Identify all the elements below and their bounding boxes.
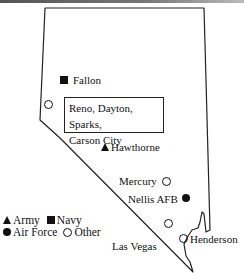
other-marker-reno	[44, 100, 53, 109]
legend-row-1: Army Navy	[3, 214, 101, 226]
site-label-mercury: Mercury	[119, 175, 157, 187]
navy-marker-fallon	[60, 76, 68, 84]
army-marker-hawthorne	[101, 143, 109, 151]
site-label-henderson: Henderson	[190, 233, 238, 245]
cities-box-line1: Reno, Dayton, Sparks,	[69, 100, 159, 132]
site-label-las-vegas: Las Vegas	[112, 240, 157, 252]
legend: Army Navy Air Force Other	[3, 214, 101, 238]
other-legend-icon	[63, 228, 72, 237]
legend-army-label: Army	[13, 214, 40, 226]
cities-group-box: Reno, Dayton, Sparks, Carson City	[64, 97, 164, 133]
other-marker-las-vegas	[164, 219, 173, 228]
site-label-nellis-afb: Nellis AFB	[128, 193, 178, 205]
legend-row-2: Air Force Other	[3, 226, 101, 238]
other-marker-mercury	[162, 177, 171, 186]
air-force-legend-icon	[3, 228, 11, 236]
army-legend-icon	[3, 216, 11, 224]
navy-legend-icon	[47, 216, 55, 224]
legend-navy-label: Navy	[57, 214, 82, 226]
legend-other-label: Other	[74, 226, 100, 238]
air-force-marker-nellis	[182, 194, 190, 202]
site-label-hawthorne: Hawthorne	[111, 141, 160, 153]
site-label-fallon: Fallon	[73, 74, 101, 86]
legend-air-force-label: Air Force	[13, 226, 57, 238]
other-marker-henderson	[179, 234, 188, 243]
